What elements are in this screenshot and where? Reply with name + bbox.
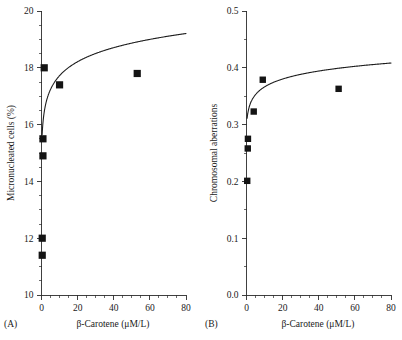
y-tick-label-a: 20: [24, 6, 34, 16]
y-axis-title-b: Chromosomal aberrations: [209, 103, 219, 202]
panel-a: 101214161820 020406080 β-Carotene (μM/L)…: [0, 0, 201, 340]
panel-b: 0.00.10.20.30.40.5 020406080 β-Carotene …: [201, 0, 402, 340]
x-axis-title-a: β-Carotene (μM/L): [77, 319, 150, 330]
data-point-marker: [39, 135, 46, 142]
x-tick-label-a: 20: [73, 303, 83, 313]
x-tick-label-a: 80: [181, 303, 191, 313]
y-tick-label-b: 0.2: [227, 177, 239, 187]
x-axis-title-b: β-Carotene (μM/L): [282, 319, 355, 330]
y-tick-label-b: 0.0: [227, 290, 239, 300]
x-tick-label-b: 0: [244, 303, 249, 313]
panel-b-plot: 0.00.10.20.30.40.5 020406080 β-Carotene …: [201, 0, 402, 340]
x-tick-label-b: 60: [350, 303, 360, 313]
data-point-marker: [56, 81, 63, 88]
data-point-marker: [39, 152, 46, 159]
y-tick-label-b: 0.5: [227, 6, 239, 16]
fit-curve-a: [42, 34, 186, 135]
data-point-marker: [134, 70, 141, 77]
y-tick-label-a: 12: [24, 234, 34, 244]
y-tick-label-b: 0.1: [227, 234, 239, 244]
data-point-marker: [245, 145, 251, 151]
x-tick-label-b: 80: [386, 303, 396, 313]
x-tick-label-a: 60: [145, 303, 155, 313]
y-tick-label-b: 0.4: [227, 63, 239, 73]
x-tick-label-a: 40: [109, 303, 119, 313]
data-point-marker: [39, 235, 46, 242]
data-point-marker: [39, 252, 46, 259]
panel-b-y-ticks: 0.00.10.20.30.40.5: [227, 6, 247, 300]
y-tick-label-a: 14: [24, 177, 34, 187]
panel-a-plot: 101214161820 020406080 β-Carotene (μM/L)…: [0, 0, 201, 340]
x-tick-label-a: 0: [39, 303, 44, 313]
x-tick-label-b: 40: [314, 303, 324, 313]
fit-curve-b: [247, 63, 391, 118]
panel-b-fit-curve-group: [247, 63, 391, 118]
data-point-marker: [245, 136, 251, 142]
panel-a-axes: [42, 11, 187, 295]
panel-b-x-ticks: 020406080: [244, 295, 396, 313]
data-point-marker: [335, 86, 341, 92]
panel-tag-b: (B): [205, 319, 218, 330]
data-point-marker: [260, 77, 266, 83]
figure-container: 101214161820 020406080 β-Carotene (μM/L)…: [0, 0, 402, 340]
panel-tag-a: (A): [4, 319, 17, 330]
data-point-marker: [251, 108, 257, 114]
y-tick-label-a: 18: [24, 63, 34, 73]
y-tick-label-a: 16: [24, 120, 34, 130]
panel-b-axes: [247, 11, 392, 295]
y-axis-title-a: Micronucleated cells (%): [6, 105, 17, 201]
y-tick-label-b: 0.3: [227, 120, 239, 130]
panel-b-markers: [244, 77, 342, 185]
panel-a-fit-curve-group: [42, 34, 186, 135]
data-point-marker: [41, 64, 48, 71]
y-tick-label-a: 10: [24, 290, 34, 300]
x-tick-label-b: 20: [278, 303, 288, 313]
panel-a-markers: [39, 64, 141, 259]
data-point-marker: [244, 178, 250, 184]
panel-a-x-ticks: 020406080: [39, 295, 191, 313]
